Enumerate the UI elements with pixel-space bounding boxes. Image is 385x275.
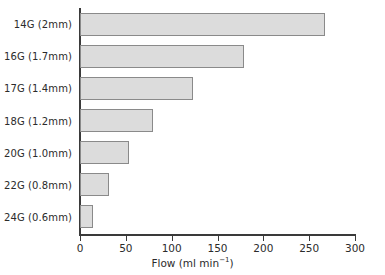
x-axis-tick — [126, 236, 127, 241]
bar-rect — [80, 13, 325, 36]
bar-row: 14G (2mm) — [80, 13, 355, 36]
bar-row: 20G (1.0mm) — [80, 141, 355, 164]
x-axis-tick — [218, 236, 219, 241]
bar-category-label: 17G (1.4mm) — [4, 83, 72, 94]
x-axis-title: Flow (ml min−1) — [0, 256, 385, 269]
x-axis-tick-label: 250 — [299, 242, 319, 254]
x-axis-tick-label: 300 — [345, 242, 365, 254]
x-axis-tick-label: 150 — [207, 242, 227, 254]
bar-category-label: 24G (0.6mm) — [4, 211, 72, 222]
x-axis-tick — [80, 236, 81, 241]
bar-category-label: 14G (2mm) — [14, 19, 72, 30]
bar-row: 18G (1.2mm) — [80, 109, 355, 132]
bar-rect — [80, 173, 109, 196]
bar-rect — [80, 109, 153, 132]
plot-area: 14G (2mm)16G (1.7mm)17G (1.4mm)18G (1.2m… — [80, 8, 355, 233]
x-axis-tick-label: 50 — [119, 242, 132, 254]
bar-rect — [80, 45, 244, 68]
bar-category-label: 22G (0.8mm) — [4, 179, 72, 190]
x-axis-tick-label: 0 — [77, 242, 84, 254]
bar-category-label: 18G (1.2mm) — [4, 115, 72, 126]
x-axis-tick — [309, 236, 310, 241]
x-axis-tick — [172, 236, 173, 241]
bar-row: 16G (1.7mm) — [80, 45, 355, 68]
x-axis-tick — [355, 236, 356, 241]
x-axis-tick — [263, 236, 264, 241]
bar-row: 17G (1.4mm) — [80, 77, 355, 100]
x-axis-tick-label: 100 — [162, 242, 182, 254]
bar-rect — [80, 77, 193, 100]
x-axis-title-main: Flow (ml min — [151, 257, 219, 269]
bar-row: 24G (0.6mm) — [80, 205, 355, 228]
x-axis-tick-label: 200 — [253, 242, 273, 254]
x-axis-title-close: ) — [229, 257, 233, 269]
bar-category-label: 16G (1.7mm) — [4, 51, 72, 62]
x-axis-title-superscript: −1 — [219, 256, 229, 264]
bar-rect — [80, 141, 129, 164]
bar-category-label: 20G (1.0mm) — [4, 147, 72, 158]
bar-row: 22G (0.8mm) — [80, 173, 355, 196]
bar-rect — [80, 205, 93, 228]
bar-chart-flow-vs-cannula-gauge: 14G (2mm)16G (1.7mm)17G (1.4mm)18G (1.2m… — [0, 0, 385, 275]
